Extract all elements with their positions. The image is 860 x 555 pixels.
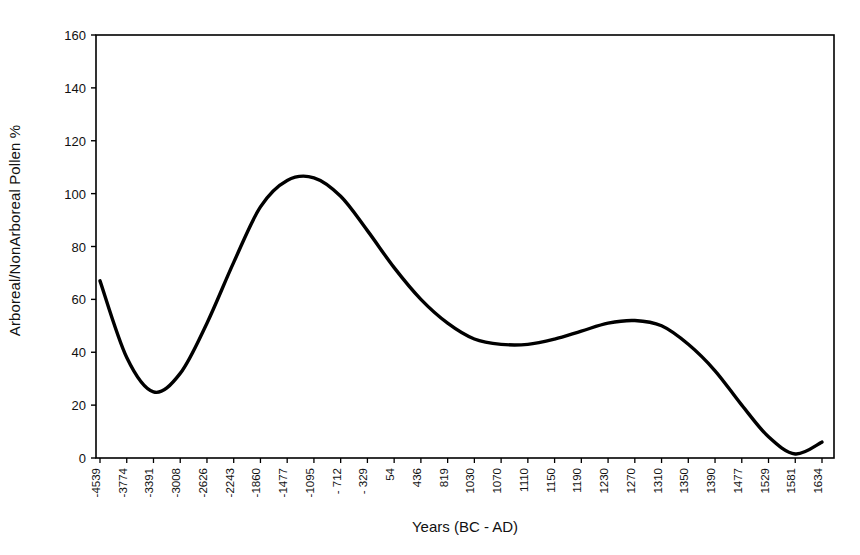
y-tick-label: 0 — [79, 451, 86, 466]
x-tick-label: 1070 — [491, 468, 503, 494]
x-tick-label: 54 — [384, 467, 396, 480]
x-tick-label: 1310 — [652, 468, 664, 494]
x-tick-label: 819 — [438, 468, 450, 487]
x-tick-label: 1390 — [705, 468, 717, 494]
x-tick-label: -3008 — [170, 468, 182, 497]
x-tick-label: 1190 — [571, 468, 583, 493]
y-axis-ticks: 020406080100120140160 — [64, 28, 96, 466]
y-tick-label: 100 — [64, 187, 86, 202]
x-tick-label: -2243 — [224, 468, 236, 497]
x-tick-label: -3774 — [117, 467, 129, 497]
x-tick-label: 1634 — [812, 467, 824, 493]
x-tick-label: 1270 — [625, 468, 637, 494]
y-tick-label: 80 — [72, 240, 86, 255]
x-tick-label: 1529 — [759, 468, 771, 494]
x-axis-title-text: Years (BC - AD) — [412, 518, 518, 535]
x-tick-label: 1581 — [785, 468, 797, 494]
x-tick-label: - 329 — [357, 468, 369, 494]
x-tick-label: 1477 — [732, 468, 744, 494]
x-tick-label: 1350 — [678, 468, 690, 494]
y-tick-label: 120 — [64, 134, 86, 149]
y-tick-label: 20 — [72, 398, 86, 413]
pollen-percentage-chart-figure: Arboreal/NonArboreal Pollen % 0204060801… — [0, 0, 860, 555]
x-tick-label: 1110 — [518, 468, 530, 492]
x-tick-label: 436 — [411, 468, 423, 487]
y-tick-label: 40 — [72, 345, 86, 360]
x-tick-label: -2626 — [197, 468, 209, 497]
x-tick-label: -1095 — [304, 468, 316, 497]
plot-frame — [96, 35, 834, 458]
y-tick-label: 60 — [72, 292, 86, 307]
plot-area: 020406080100120140160 -4539-3774-3391-30… — [0, 0, 860, 555]
x-tick-label: - 712 — [331, 468, 343, 494]
x-axis-ticks: -4539-3774-3391-3008-2626-2243-1860-1477… — [90, 458, 824, 497]
x-tick-label: -1860 — [250, 468, 262, 497]
x-tick-label: 1030 — [464, 468, 476, 494]
x-tick-label: 1230 — [598, 468, 610, 494]
x-tick-label: -3391 — [143, 468, 155, 497]
y-tick-label: 160 — [64, 28, 86, 43]
x-tick-label: -4539 — [90, 468, 102, 497]
x-tick-label: 1150 — [545, 468, 557, 493]
x-axis-title: Years (BC - AD) — [95, 518, 835, 535]
y-tick-label: 140 — [64, 81, 86, 96]
x-tick-label: -1477 — [277, 468, 289, 497]
